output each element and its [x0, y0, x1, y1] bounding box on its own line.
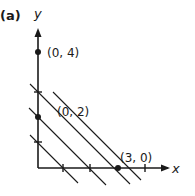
- panel-label: (a): [0, 8, 21, 23]
- parallel-lines: [29, 84, 141, 185]
- y-axis-label: y: [33, 6, 42, 21]
- y-axis-arrow-icon: [35, 28, 42, 37]
- line-3: [30, 84, 130, 184]
- coordinate-diagram: (a) y x (0, 4) (0, 2) (3, 0): [0, 0, 195, 196]
- point-label-0-4: (0, 4): [47, 46, 79, 60]
- line-2: [29, 108, 106, 185]
- point-0-4: [35, 49, 41, 55]
- point-3-0: [115, 165, 121, 171]
- x-axis-arrow-icon: [161, 165, 170, 172]
- point-0-2: [35, 114, 41, 120]
- point-label-3-0: (3, 0): [120, 151, 152, 165]
- x-axis-label: x: [171, 161, 180, 176]
- point-label-0-2: (0, 2): [57, 105, 89, 119]
